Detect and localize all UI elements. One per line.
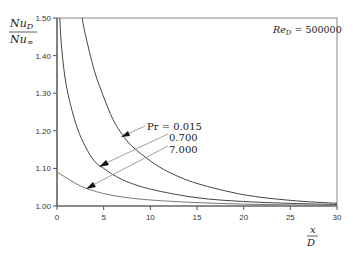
line-chart: 0510152025301.001.101.201.301.401.50 Pr … — [0, 0, 359, 255]
svg-text:D: D — [306, 237, 315, 248]
x-tick-label: 5 — [101, 213, 106, 222]
series-label-pr-0015: Pr = 0.015 — [147, 121, 202, 132]
y-tick-label: 1.40 — [35, 52, 51, 61]
curve-pr-0-015 — [82, 18, 337, 203]
svg-text:Nu∞: Nu∞ — [9, 33, 33, 47]
y-tick-label: 1.30 — [35, 89, 51, 98]
y-axis-label: NuD Nu∞ — [9, 17, 37, 47]
x-tick-label: 0 — [55, 213, 60, 222]
reynolds-annotation: ReD = 500000 — [272, 24, 342, 37]
x-tick-label: 30 — [333, 213, 342, 222]
svg-text:NuD: NuD — [9, 17, 34, 31]
curves — [57, 18, 337, 205]
y-tick-label: 1.00 — [35, 202, 51, 211]
x-tick-label: 10 — [146, 213, 155, 222]
axis-ticks: 0510152025301.001.101.201.301.401.50 — [35, 14, 342, 222]
arrowhead-icon — [86, 182, 96, 189]
series-label-pr-7000: 7.000 — [169, 144, 198, 155]
leader-arrows — [86, 126, 168, 189]
series-label-pr-0700: 0.700 — [169, 132, 198, 143]
arrowhead-icon — [99, 160, 109, 167]
x-tick-label: 25 — [286, 213, 295, 222]
plot-frame — [57, 18, 337, 206]
y-tick-label: 1.50 — [35, 14, 51, 23]
x-tick-label: 20 — [239, 213, 248, 222]
leader-pr-0700 — [104, 134, 168, 164]
x-axis-label: x D — [306, 224, 318, 248]
x-tick-label: 15 — [193, 213, 202, 222]
y-tick-label: 1.20 — [35, 127, 51, 136]
svg-text:x: x — [310, 224, 316, 235]
curve-pr-0-700 — [60, 18, 337, 205]
y-tick-label: 1.10 — [35, 164, 51, 173]
